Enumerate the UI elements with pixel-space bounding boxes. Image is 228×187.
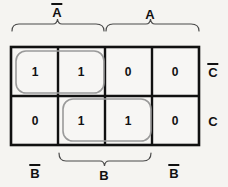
bottom-label-b-not-left-text: B — [30, 166, 39, 180]
brace-b — [59, 153, 151, 166]
brace-a-not — [12, 19, 104, 31]
bottom-label-b-not-right-text: B — [169, 166, 178, 180]
right-label-c-not: C — [208, 65, 217, 79]
kmap-cell-r1c2: 1 — [78, 66, 85, 78]
top-label-a-text: A — [145, 7, 154, 22]
kmap-cell-r2c1: 0 — [32, 115, 39, 127]
kmap-cell-r2c2: 1 — [78, 115, 85, 127]
kmap-cell-r1c1: 1 — [32, 66, 39, 78]
karnaugh-map-figure: A A C C B B B 1 1 0 0 0 1 1 0 — [0, 0, 228, 187]
kmap-cell-r1c4: 0 — [172, 66, 179, 78]
top-label-a: A — [145, 8, 154, 21]
right-label-c-text: C — [208, 114, 217, 129]
bottom-label-b: B — [99, 169, 108, 182]
bottom-label-b-not-right: B — [169, 166, 178, 180]
top-label-a-not-text: A — [52, 5, 61, 19]
right-label-c-not-text: C — [208, 65, 217, 79]
kmap-cell-r2c3: 1 — [125, 115, 132, 127]
bottom-label-b-text: B — [99, 168, 108, 183]
kmap-cell-r1c3: 0 — [125, 66, 132, 78]
bottom-label-b-not-left: B — [30, 166, 39, 180]
kmap-cell-r2c4: 0 — [172, 115, 179, 127]
top-label-a-not: A — [52, 5, 61, 19]
karnaugh-map-canvas — [0, 0, 228, 187]
right-label-c: C — [208, 115, 217, 128]
